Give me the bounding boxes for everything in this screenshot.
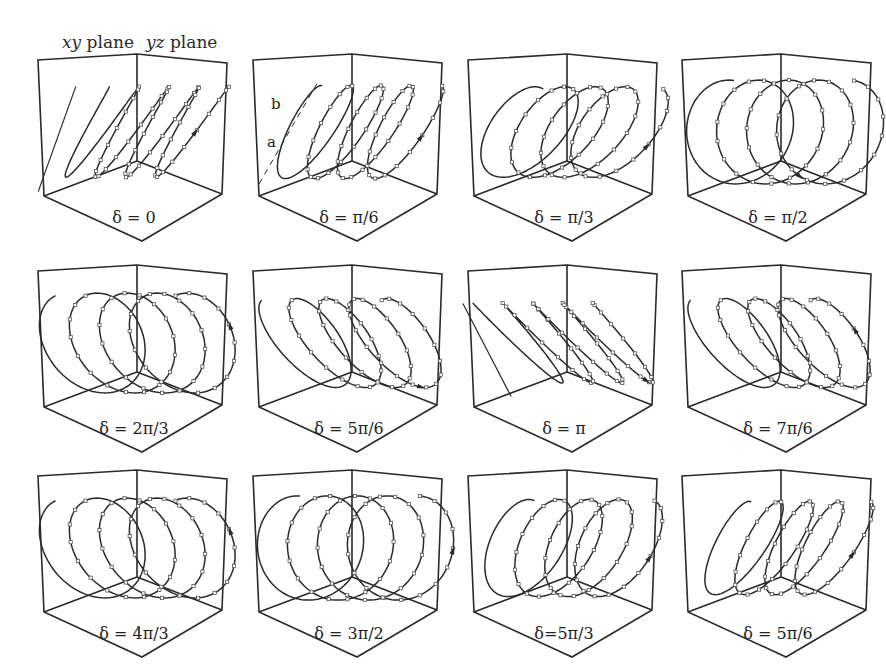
data-marker xyxy=(526,326,529,329)
data-marker xyxy=(787,182,790,185)
data-marker xyxy=(329,494,332,497)
data-marker xyxy=(319,301,322,304)
data-marker xyxy=(123,497,126,500)
data-marker xyxy=(560,166,563,169)
data-marker xyxy=(775,133,778,136)
data-marker xyxy=(573,314,576,317)
data-marker xyxy=(194,93,197,96)
data-marker xyxy=(797,385,800,388)
data-marker xyxy=(201,570,204,573)
data-marker xyxy=(595,336,598,339)
data-marker xyxy=(801,503,804,506)
data-marker xyxy=(735,172,738,175)
data-marker xyxy=(557,521,560,524)
data-marker xyxy=(588,108,591,111)
data-marker xyxy=(532,302,535,305)
data-marker xyxy=(129,518,132,521)
data-marker xyxy=(446,566,449,569)
data-marker xyxy=(368,150,371,153)
data-marker xyxy=(178,299,181,302)
data-marker xyxy=(602,577,605,580)
data-marker xyxy=(580,500,583,503)
data-marker xyxy=(657,536,660,539)
data-marker xyxy=(365,345,368,348)
panel-7: δ = 7π/6 xyxy=(666,255,886,465)
data-marker xyxy=(614,87,617,90)
data-marker xyxy=(596,162,599,165)
data-marker xyxy=(422,534,425,537)
data-marker xyxy=(584,175,587,178)
data-marker xyxy=(610,323,613,326)
data-marker xyxy=(615,560,618,563)
data-marker xyxy=(380,369,383,372)
data-marker xyxy=(207,112,210,115)
data-marker xyxy=(745,127,748,130)
data-marker xyxy=(537,595,540,598)
data-marker xyxy=(336,160,339,163)
data-marker xyxy=(98,324,101,327)
data-marker xyxy=(95,170,98,173)
data-marker xyxy=(806,354,809,357)
data-marker xyxy=(385,317,388,320)
data-marker xyxy=(747,310,750,313)
data-marker xyxy=(174,294,177,297)
data-marker xyxy=(553,498,556,501)
data-marker xyxy=(770,182,773,185)
data-marker xyxy=(418,594,421,597)
data-marker xyxy=(353,571,356,574)
data-marker xyxy=(796,589,799,592)
data-marker xyxy=(347,308,350,311)
panel-9: δ = 3π/2 xyxy=(237,460,457,670)
data-marker xyxy=(751,181,754,184)
data-marker xyxy=(227,85,230,88)
data-marker xyxy=(599,86,602,89)
data-marker xyxy=(841,502,844,505)
data-marker xyxy=(837,523,840,526)
data-marker xyxy=(300,506,303,509)
panel-3: δ = π/2 xyxy=(666,44,886,254)
data-marker xyxy=(809,369,812,372)
data-marker xyxy=(625,501,628,504)
data-marker xyxy=(339,160,342,163)
data-marker xyxy=(142,132,145,135)
data-marker xyxy=(76,559,79,562)
data-marker xyxy=(388,297,391,300)
data-marker xyxy=(622,337,625,340)
data-marker xyxy=(870,500,873,503)
data-marker xyxy=(854,386,857,389)
data-marker xyxy=(142,387,145,390)
data-marker xyxy=(513,568,516,571)
data-marker xyxy=(746,536,749,539)
data-marker xyxy=(757,588,760,591)
data-marker xyxy=(760,340,763,343)
data-marker xyxy=(839,159,842,162)
data-marker xyxy=(754,366,757,369)
data-marker xyxy=(716,120,719,123)
data-marker xyxy=(777,314,780,317)
data-marker xyxy=(382,87,385,90)
data-marker xyxy=(637,100,640,103)
data-marker xyxy=(395,374,398,377)
data-marker xyxy=(128,330,131,333)
data-marker xyxy=(151,115,154,118)
data-marker xyxy=(325,366,328,369)
data-marker xyxy=(389,522,392,525)
delta-label: δ=5π/3 xyxy=(534,624,593,643)
data-marker xyxy=(344,356,347,359)
data-marker xyxy=(327,598,330,601)
data-marker xyxy=(774,501,777,504)
data-marker xyxy=(581,566,584,569)
data-marker xyxy=(770,176,773,179)
data-marker xyxy=(377,354,380,357)
data-marker xyxy=(366,164,369,167)
data-marker xyxy=(441,84,444,87)
data-marker xyxy=(872,506,875,509)
data-marker xyxy=(528,176,531,179)
data-marker xyxy=(173,353,176,356)
data-marker xyxy=(213,591,216,594)
data-marker xyxy=(625,131,628,134)
data-marker xyxy=(792,511,795,514)
data-marker xyxy=(197,596,200,599)
data-marker xyxy=(115,126,118,129)
data-marker xyxy=(781,298,784,301)
